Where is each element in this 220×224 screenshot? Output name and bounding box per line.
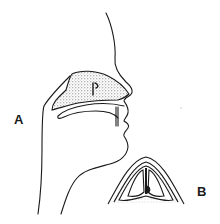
profile-view-a (38, 13, 132, 214)
figure-label-a: A (14, 113, 23, 126)
figure-label-b: B (197, 185, 206, 198)
cross-section-septal-deviation (146, 186, 150, 193)
cross-section-view-b (108, 157, 184, 204)
anatomy-drawing (0, 0, 220, 224)
speck (180, 107, 181, 108)
